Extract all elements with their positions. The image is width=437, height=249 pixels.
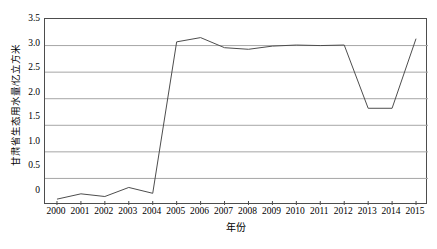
plot-area xyxy=(44,18,427,204)
x-tick-label: 2011 xyxy=(310,206,329,217)
x-tick-label: 2010 xyxy=(286,206,305,217)
x-tick-label: 2006 xyxy=(190,206,209,217)
y-tick-label: 1.5 xyxy=(28,112,40,122)
line-chart-figure: 甘肃省生态用水量/亿立方米 3.5 3.0 2.5 2.0 1.5 1.0 0.… xyxy=(0,0,437,249)
x-tick-label: 2013 xyxy=(358,206,377,217)
x-tick-label: 2007 xyxy=(214,206,233,217)
x-tick-label: 2002 xyxy=(94,206,113,217)
y-tick-label: 0.5 xyxy=(28,161,40,171)
x-tick-label: 2005 xyxy=(166,206,185,217)
x-axis-tick-labels: 2000200120022003200420052006200720082009… xyxy=(44,206,427,220)
y-tick-label: 2.0 xyxy=(28,88,40,98)
x-tick-label: 2001 xyxy=(70,206,89,217)
y-axis-tick-labels: 3.5 3.0 2.5 2.0 1.5 1.0 0.5 0 xyxy=(0,0,44,249)
data-series-line xyxy=(57,38,416,200)
x-tick-label: 2014 xyxy=(382,206,401,217)
x-tick-label: 2003 xyxy=(118,206,137,217)
y-tick-label: 0 xyxy=(35,186,40,196)
x-tick-label: 2012 xyxy=(334,206,353,217)
x-tick-label: 2009 xyxy=(262,206,281,217)
chart-canvas xyxy=(45,19,428,205)
x-tick-label: 2015 xyxy=(406,206,425,217)
x-axis-title: 年份 xyxy=(44,222,427,234)
y-tick-label: 1.0 xyxy=(28,137,40,147)
x-tick-marks xyxy=(57,201,416,205)
y-tick-label: 2.5 xyxy=(28,63,40,73)
y-tick-label: 3.0 xyxy=(28,39,40,49)
x-tick-label: 2008 xyxy=(238,206,257,217)
x-tick-label: 2004 xyxy=(142,206,161,217)
gridlines xyxy=(45,46,428,179)
x-tick-label: 2000 xyxy=(46,206,65,217)
y-tick-label: 3.5 xyxy=(28,14,40,24)
